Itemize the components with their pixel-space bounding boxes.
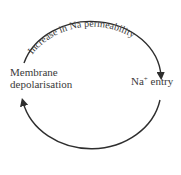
na-suffix: entry xyxy=(148,75,173,87)
arc-label: Increase in Na permeability xyxy=(25,18,137,56)
node-membrane-depolarisation: Membrane depolarisation xyxy=(10,66,72,90)
membrane-line2: depolarisation xyxy=(10,78,72,90)
bottom-arc-arrow xyxy=(23,100,160,149)
node-na-entry: Na+ entry xyxy=(131,73,173,87)
membrane-line1: Membrane xyxy=(10,66,72,78)
na-prefix: Na xyxy=(131,75,144,87)
